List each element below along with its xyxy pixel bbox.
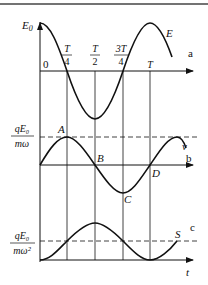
svg-text:qE₀: qE₀ — [15, 123, 30, 134]
point-a-label: A — [57, 123, 65, 135]
e0-label: E0 — [21, 19, 33, 33]
tick-t-half: T 2 — [90, 43, 100, 67]
svg-text:3T: 3T — [115, 43, 128, 54]
svg-text:qE₀: qE₀ — [15, 230, 30, 241]
svg-text:T: T — [64, 43, 71, 54]
point-c-label: C — [124, 193, 132, 205]
panel-b-label: b — [186, 152, 192, 164]
svg-text:4: 4 — [65, 56, 70, 67]
e-curve-label: E — [165, 27, 173, 39]
svg-text:4: 4 — [119, 56, 124, 67]
panel-c-label: c — [190, 221, 195, 233]
tick-t: T — [147, 59, 154, 70]
origin-label: 0 — [43, 58, 49, 70]
s-curve-label: S — [175, 228, 181, 240]
svg-text:2: 2 — [93, 56, 98, 67]
point-b-label: B — [97, 152, 104, 164]
svg-text:mω: mω — [15, 138, 29, 149]
displacement-y-label: qE₀ mω² — [10, 230, 35, 256]
panel-a-label: a — [188, 47, 193, 59]
v-curve-label: v — [182, 140, 187, 152]
svg-text:T: T — [92, 43, 99, 54]
motion-diagram: E0 E a 0 T 4 T 2 3T 4 T qE₀ mω A B C D v… — [0, 0, 208, 285]
displacement-curve — [40, 223, 177, 260]
t-axis-label: t — [186, 266, 190, 278]
velocity-y-label: qE₀ mω — [11, 123, 34, 149]
point-d-label: D — [151, 167, 160, 179]
svg-text:mω²: mω² — [13, 245, 31, 256]
